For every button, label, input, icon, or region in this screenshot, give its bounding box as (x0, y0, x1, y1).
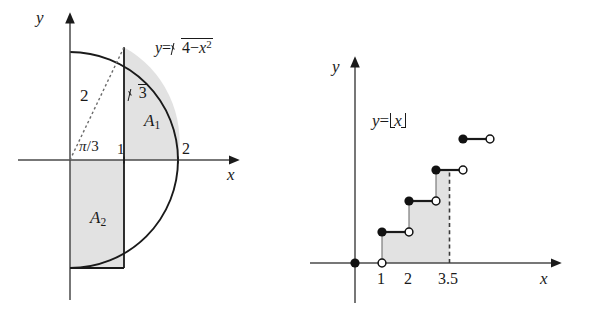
sqrt3-symbol: 3 (128, 84, 148, 101)
open-point-x4-y3 (459, 166, 467, 174)
floor-eq-lhs: y (372, 111, 380, 130)
x-tick-label-35: 3.5 (438, 271, 458, 287)
radius-length-label: 2 (80, 87, 89, 104)
region-label-a1: A1 (144, 112, 160, 132)
open-point-x2-y1 (405, 228, 413, 236)
open-point-x1-y0 (378, 259, 386, 267)
region-a1-shading (124, 47, 180, 160)
radicand-exponent: 2 (206, 38, 211, 50)
angle-denominator: 3 (91, 138, 99, 154)
floor-eq-sign: = (380, 111, 390, 130)
y-axis-label: y (332, 58, 340, 75)
x-tick-label-1: 1 (117, 142, 125, 157)
sqrt-symbol: 4−x2 (171, 38, 213, 56)
floor-equation-label: y=x (372, 112, 407, 129)
sqrt3-radicand: 3 (138, 84, 149, 101)
region-label-a2: A2 (90, 209, 106, 229)
angle-label: π/3 (79, 139, 99, 154)
pi-symbol: π (79, 138, 87, 154)
floor-argument: x (394, 111, 402, 130)
semicircle-panel: y x y=4−x2 2 3 π/3 1 2 A1 A2 (0, 0, 300, 312)
x-axis-label: x (540, 270, 548, 287)
radicand-number: 4 (182, 39, 190, 56)
closed-point-x1-y1 (377, 227, 386, 236)
sqrt-radicand: 4−x2 (181, 38, 213, 56)
open-point-x3-y2 (432, 197, 440, 205)
curve-eq-sign: = (162, 39, 171, 56)
radicand-minus: − (190, 39, 199, 56)
closed-point-origin (350, 258, 359, 267)
closed-point-x4-y4 (458, 134, 467, 143)
closed-point-x3-y3 (431, 165, 440, 174)
floor-brackets: x (389, 112, 407, 129)
semicircle-plot (0, 0, 300, 312)
floor-area-shading (382, 170, 450, 263)
curve-equation-label: y=4−x2 (155, 38, 213, 56)
x-tick-label-2: 2 (404, 271, 412, 287)
chord-height-label: 3 (128, 84, 148, 101)
region-a1-subscript: 1 (154, 119, 160, 132)
closed-point-x2-y2 (404, 196, 413, 205)
region-a2-name: A (90, 208, 100, 227)
open-point-x5-y4 (486, 135, 494, 143)
y-axis-label: y (36, 9, 44, 26)
figure-root: y x y=4−x2 2 3 π/3 1 2 A1 A2 (0, 0, 599, 312)
region-a1-name: A (144, 111, 154, 130)
x-tick-label-1: 1 (377, 271, 385, 287)
x-axis-label: x (227, 166, 235, 183)
floor-plot (300, 0, 599, 312)
region-a2-subscript: 2 (100, 216, 106, 229)
floor-panel: y x y=x 1 2 3.5 (300, 0, 599, 312)
x-tick-label-2: 2 (182, 141, 190, 157)
